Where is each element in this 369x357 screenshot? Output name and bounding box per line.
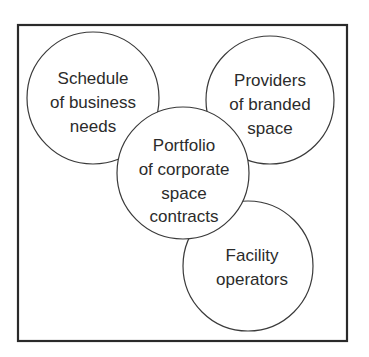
label-facility-line-2: operators — [216, 270, 288, 289]
label-schedule-line-2: of business — [50, 93, 136, 112]
ecosystem-diagram: Schedule of business needs Providers of … — [0, 0, 369, 357]
label-providers-line-1: Providers — [234, 71, 306, 90]
node-portfolio-of-corporate-space-contracts: Portfolio of corporate space contracts — [117, 107, 249, 239]
label-portfolio-line-2: of corporate — [139, 160, 230, 179]
label-portfolio-line-4: contracts — [150, 207, 219, 226]
label-providers-line-3: space — [247, 119, 292, 138]
label-providers-line-2: of branded — [229, 95, 310, 114]
label-schedule-line-3: needs — [70, 117, 116, 136]
label-facility-line-1: Facility — [226, 246, 279, 265]
label-portfolio-line-3: space — [161, 184, 206, 203]
label-schedule-line-1: Schedule — [58, 69, 129, 88]
label-portfolio-line-1: Portfolio — [153, 136, 215, 155]
